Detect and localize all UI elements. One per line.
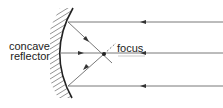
mirror-hatching [50,0,76,108]
ray-arrows [140,20,146,88]
reflector-label-line2: reflector [9,51,50,61]
arrow-icon [83,64,89,70]
focus-point [102,52,106,56]
reflected-rays [68,22,116,86]
arrow-left-icon [140,20,146,24]
arrow-left-icon [140,84,146,88]
focus-label: focus [117,43,143,54]
incoming-rays [61,22,223,86]
arrow-right-icon [78,51,84,55]
reflector-label: concave reflector [9,41,50,61]
